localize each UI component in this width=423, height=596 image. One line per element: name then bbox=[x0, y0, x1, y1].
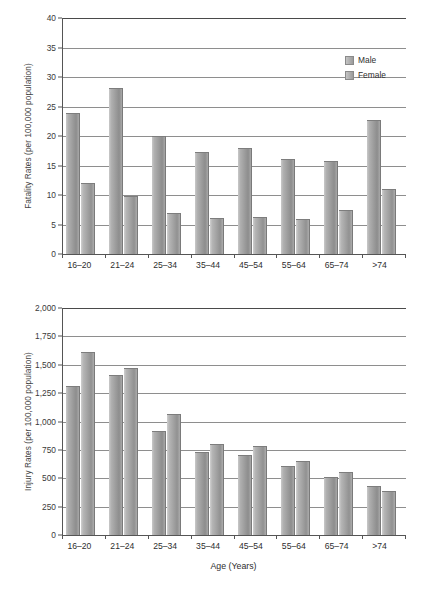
legend-fatality: Male Female bbox=[345, 55, 386, 80]
bar-male-4 bbox=[238, 455, 252, 535]
y-tick-label: 2,000 bbox=[35, 303, 56, 313]
x-tick-mark bbox=[362, 254, 363, 258]
x-tick-label: >74 bbox=[372, 541, 387, 551]
y-tick-label: 500 bbox=[42, 473, 56, 483]
y-tick-mark bbox=[58, 308, 62, 309]
x-axis-title-injury: Age (Years) bbox=[62, 561, 405, 571]
plot-area-injury bbox=[62, 308, 406, 536]
bar-male-6 bbox=[324, 161, 338, 254]
x-tick-label: 35–44 bbox=[196, 260, 220, 270]
bar-female-6 bbox=[339, 210, 353, 254]
y-axis-title-injury: Injury Rates (per 100,000 population) bbox=[24, 308, 33, 535]
bar-male-0 bbox=[66, 113, 80, 254]
bar-male-5 bbox=[281, 466, 295, 535]
x-tick-label: 35–44 bbox=[196, 541, 220, 551]
x-tick-label: >74 bbox=[372, 260, 387, 270]
y-tick-label: 1,000 bbox=[35, 417, 56, 427]
x-tick-mark bbox=[105, 535, 106, 539]
bar-series-container bbox=[63, 308, 406, 535]
bar-female-3 bbox=[210, 444, 224, 535]
bar-female-0 bbox=[81, 183, 95, 254]
y-tick-mark bbox=[58, 195, 62, 196]
x-tick-mark bbox=[319, 254, 320, 258]
chart-panel-fatality: Fatality Rates (per 100,000 population) … bbox=[0, 0, 423, 292]
x-tick-mark bbox=[62, 535, 63, 539]
x-tick-mark bbox=[362, 535, 363, 539]
x-tick-mark bbox=[405, 254, 406, 258]
bar-male-1 bbox=[109, 88, 123, 254]
y-tick-mark bbox=[58, 449, 62, 450]
legend-label-male: Male bbox=[358, 55, 376, 65]
y-tick-label: 25 bbox=[47, 102, 56, 112]
x-tick-label: 55–64 bbox=[282, 541, 306, 551]
x-tick-mark bbox=[276, 254, 277, 258]
x-tick-label: 45–54 bbox=[239, 260, 263, 270]
y-tick-mark bbox=[58, 364, 62, 365]
bar-male-7 bbox=[367, 486, 381, 535]
bar-female-7 bbox=[382, 189, 396, 254]
y-tick-mark bbox=[58, 393, 62, 394]
bar-male-3 bbox=[195, 452, 209, 535]
bar-male-6 bbox=[324, 477, 338, 535]
bar-female-4 bbox=[253, 217, 267, 254]
y-tick-label: 15 bbox=[47, 161, 56, 171]
y-tick-label: 35 bbox=[47, 43, 56, 53]
bar-male-0 bbox=[66, 386, 80, 535]
x-tick-label: 45–54 bbox=[239, 541, 263, 551]
x-tick-label: 21–24 bbox=[110, 541, 134, 551]
bar-female-4 bbox=[253, 446, 267, 535]
legend-swatch-male-icon bbox=[345, 56, 354, 65]
y-tick-mark bbox=[58, 421, 62, 422]
chart-panel-injury: Injury Rates (per 100,000 population) Ag… bbox=[0, 292, 423, 596]
x-tick-mark bbox=[276, 535, 277, 539]
y-tick-mark bbox=[58, 136, 62, 137]
bar-female-1 bbox=[124, 368, 138, 535]
bar-male-3 bbox=[195, 152, 209, 254]
y-tick-mark bbox=[58, 506, 62, 507]
bar-female-2 bbox=[167, 213, 181, 254]
y-tick-label: 0 bbox=[51, 530, 56, 540]
x-tick-label: 65–74 bbox=[325, 541, 349, 551]
y-tick-label: 20 bbox=[47, 131, 56, 141]
bar-male-5 bbox=[281, 159, 295, 254]
y-tick-label: 1,500 bbox=[35, 360, 56, 370]
bar-male-1 bbox=[109, 375, 123, 535]
legend-label-female: Female bbox=[358, 70, 386, 80]
bar-female-6 bbox=[339, 472, 353, 535]
x-tick-label: 25–34 bbox=[153, 541, 177, 551]
bar-female-5 bbox=[296, 219, 310, 254]
legend-item-male: Male bbox=[345, 55, 386, 65]
x-tick-mark bbox=[405, 535, 406, 539]
bar-male-2 bbox=[152, 431, 166, 535]
legend-item-female: Female bbox=[345, 70, 386, 80]
bar-female-0 bbox=[81, 352, 95, 535]
y-tick-mark bbox=[58, 165, 62, 166]
bar-male-4 bbox=[238, 148, 252, 254]
x-tick-mark bbox=[319, 535, 320, 539]
x-tick-mark bbox=[234, 535, 235, 539]
y-tick-label: 0 bbox=[51, 249, 56, 259]
x-tick-mark bbox=[148, 535, 149, 539]
y-tick-label: 40 bbox=[47, 13, 56, 23]
x-tick-mark bbox=[62, 254, 63, 258]
y-tick-mark bbox=[58, 336, 62, 337]
x-tick-label: 16–20 bbox=[67, 541, 91, 551]
figure-root: Fatality Rates (per 100,000 population) … bbox=[0, 0, 423, 596]
y-tick-label: 750 bbox=[42, 445, 56, 455]
x-tick-label: 25–34 bbox=[153, 260, 177, 270]
bar-female-1 bbox=[124, 196, 138, 254]
y-tick-label: 10 bbox=[47, 190, 56, 200]
y-tick-mark bbox=[58, 106, 62, 107]
bar-female-3 bbox=[210, 218, 224, 254]
x-tick-label: 65–74 bbox=[325, 260, 349, 270]
x-tick-mark bbox=[105, 254, 106, 258]
x-tick-mark bbox=[191, 535, 192, 539]
y-tick-label: 30 bbox=[47, 72, 56, 82]
x-tick-mark bbox=[191, 254, 192, 258]
x-tick-label: 55–64 bbox=[282, 260, 306, 270]
y-tick-mark bbox=[58, 224, 62, 225]
y-tick-mark bbox=[58, 77, 62, 78]
x-tick-mark bbox=[234, 254, 235, 258]
y-tick-label: 1,250 bbox=[35, 388, 56, 398]
x-tick-label: 21–24 bbox=[110, 260, 134, 270]
